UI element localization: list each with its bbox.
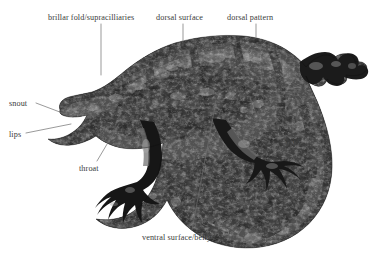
label-dorsal-pattern: dorsal pattern [227,13,273,22]
label-vent: vent [285,136,300,145]
label-dorsal-surface: dorsal surface [156,13,203,22]
label-ventral-surface: ventral surface/belly [142,233,211,242]
figure-canvas: brillar fold/supracilliariesdorsal surfa… [0,0,375,256]
gecko-skin-texture [0,0,375,256]
label-snout: snout [9,99,27,108]
gecko-illustration [0,0,375,256]
label-brillar-fold: brillar fold/supracilliaries [48,13,134,22]
gecko-body [0,0,375,256]
leader-lips [26,124,71,133]
label-lips: lips [9,130,21,139]
gecko-raised-foot [300,52,368,86]
label-throat: throat [79,164,99,173]
